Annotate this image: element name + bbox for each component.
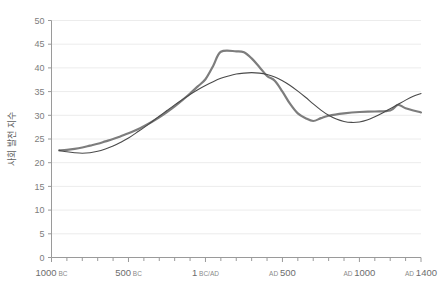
- y-tick-label: 35: [34, 87, 44, 97]
- series-line-series-dark: [59, 73, 421, 154]
- year-number: 1000: [36, 267, 57, 278]
- era-suffix: BC/AD: [197, 270, 219, 277]
- line-chart: 05101520253035404550 1000 BC500 BC1 BC/A…: [0, 0, 444, 298]
- series-line-series-gray: [59, 51, 421, 151]
- y-axis-title-text: 사회 발전 지수: [7, 112, 17, 165]
- era-prefix: AD: [269, 270, 280, 277]
- x-tick-label: AD 500: [269, 267, 296, 278]
- era-suffix: BC: [131, 270, 142, 277]
- svg-text:1 BC/AD: 1 BC/AD: [192, 267, 219, 278]
- gridlines: [52, 21, 422, 234]
- x-tick-label: AD 1400: [405, 267, 437, 278]
- svg-text:AD 1000: AD 1000: [343, 267, 375, 278]
- y-tick-label: 40: [34, 63, 44, 73]
- svg-text:500 BC: 500 BC: [115, 267, 142, 278]
- svg-text:1000 BC: 1000 BC: [36, 267, 68, 278]
- era-suffix: BC: [57, 270, 68, 277]
- y-tick-label: 45: [34, 39, 44, 49]
- year-number: 1400: [416, 267, 437, 278]
- chart-container: 05101520253035404550 1000 BC500 BC1 BC/A…: [0, 0, 444, 298]
- y-tick-label: 50: [34, 16, 44, 26]
- y-tick-label: 15: [34, 182, 44, 192]
- x-axis-tick-labels: 1000 BC500 BC1 BC/ADAD 500AD 1000AD 1400: [36, 267, 437, 278]
- y-tick-label: 30: [34, 111, 44, 121]
- year-number: 1000: [354, 267, 375, 278]
- y-axis-title: 사회 발전 지수: [7, 112, 17, 165]
- y-tick-label: 5: [39, 229, 44, 239]
- x-tick-label: 500 BC: [115, 267, 142, 278]
- svg-text:AD 1400: AD 1400: [405, 267, 437, 278]
- x-axis-ticks: [52, 258, 422, 263]
- x-tick-label: 1 BC/AD: [192, 267, 219, 278]
- year-number: 500: [280, 267, 296, 278]
- y-tick-label: 0: [39, 253, 44, 263]
- era-prefix: AD: [405, 270, 416, 277]
- x-tick-label: AD 1000: [343, 267, 375, 278]
- y-axis-tick-labels: 05101520253035404550: [34, 16, 44, 263]
- y-tick-label: 25: [34, 134, 44, 144]
- era-prefix: AD: [343, 270, 354, 277]
- y-tick-label: 20: [34, 158, 44, 168]
- data-series: [59, 51, 421, 154]
- y-axis-ticks: [48, 21, 52, 258]
- svg-text:AD 500: AD 500: [269, 267, 296, 278]
- y-tick-label: 10: [34, 205, 44, 215]
- year-number: 500: [115, 267, 131, 278]
- x-tick-label: 1000 BC: [36, 267, 68, 278]
